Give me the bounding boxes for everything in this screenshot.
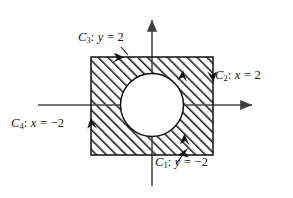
label-c3: C3: y = 2 [78, 30, 124, 45]
label-c2: C2: x = 2 [215, 68, 261, 83]
label-c1-value: −2 [194, 155, 208, 169]
label-c2-name: C [215, 68, 224, 82]
label-c1-separator: : [168, 155, 172, 169]
figure-canvas [0, 0, 293, 198]
label-c3-separator: : [91, 30, 95, 44]
label-c1-equals: = [184, 155, 191, 169]
math-figure: C3: y = 2 C2: x = 2 C4: x = −2 C1: y = −… [0, 0, 293, 198]
label-c4-value: −2 [50, 116, 64, 130]
label-c3-value: 2 [117, 30, 123, 44]
label-c4-variable: x [31, 116, 37, 130]
label-c3-name: C [78, 30, 87, 44]
label-c3-equals: = [107, 30, 114, 44]
c3-leader [121, 47, 128, 55]
label-c4-separator: : [24, 116, 28, 130]
label-c4-name: C [11, 116, 20, 130]
label-c1-variable: y [175, 155, 181, 169]
label-c2-variable: x [235, 68, 241, 82]
label-c1: C1: y = −2 [155, 155, 208, 170]
label-c4-equals: = [40, 116, 47, 130]
label-c4: C4: x = −2 [11, 116, 64, 131]
label-c2-equals: = [244, 68, 251, 82]
label-c2-separator: : [228, 68, 232, 82]
label-c3-variable: y [98, 30, 104, 44]
inner-circle-boundary [121, 74, 184, 137]
label-c2-value: 2 [254, 68, 260, 82]
label-c1-name: C [155, 155, 164, 169]
